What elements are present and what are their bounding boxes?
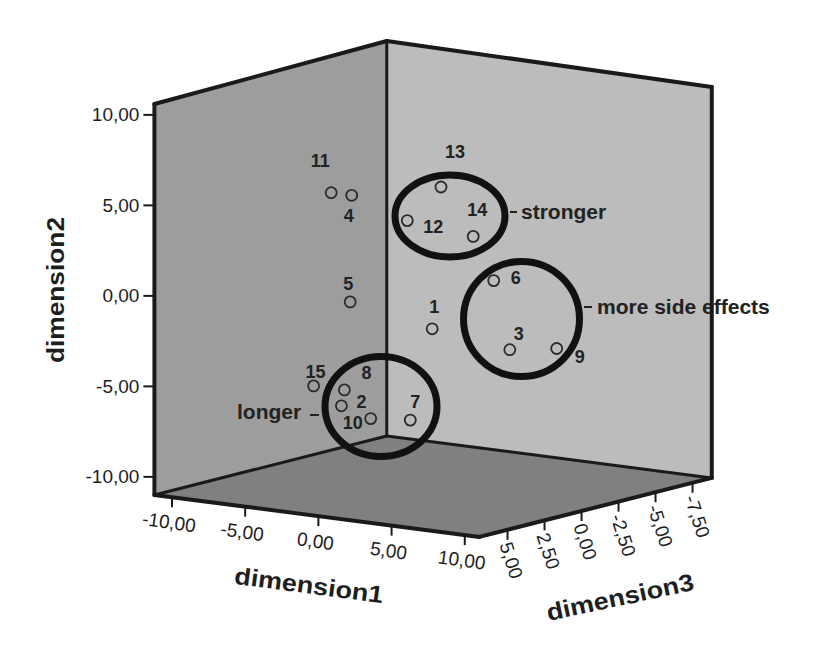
annotation-label-stronger: stronger (521, 200, 606, 223)
data-point-label: 3 (514, 324, 524, 344)
data-point-label: 7 (410, 392, 420, 412)
mds-3d-scatter-chart: stronger more side effects longer 10,005… (0, 0, 825, 657)
annotation-label-longer: longer (237, 400, 301, 423)
data-point-label: 12 (423, 217, 443, 237)
z-tick-label: 0,00 (570, 521, 601, 563)
y-axis-title: dimension2 (42, 217, 69, 363)
y-tick-label: -5,00 (96, 376, 139, 397)
x-tick-label: 5,00 (369, 538, 409, 564)
z-tick-label: -7,50 (681, 493, 714, 541)
data-point-label: 5 (343, 274, 353, 294)
data-point-label: 2 (356, 392, 366, 412)
data-point-label: 4 (344, 206, 354, 226)
z-tick-label: 5,00 (496, 540, 527, 582)
x-tick-label: -10,00 (141, 508, 197, 536)
data-point-label: 6 (511, 268, 521, 288)
x-tick-label: 0,00 (296, 528, 336, 554)
y-tick-label: 10,00 (92, 104, 140, 125)
z-axis-title: dimension3 (544, 568, 696, 626)
z-tick-label: -2,50 (607, 511, 640, 559)
x-tick-label: -5,00 (219, 518, 265, 545)
z-tick-label: -5,00 (644, 502, 677, 550)
data-point-label: 8 (361, 363, 371, 383)
x-axis-title: dimension1 (233, 562, 385, 608)
chart-walls (154, 41, 711, 537)
data-point-label: 9 (575, 347, 585, 367)
y-tick-label: 0,00 (102, 285, 139, 306)
data-point-label: 14 (467, 200, 487, 220)
x-tick-label: 10,00 (437, 546, 487, 573)
data-point-label: 10 (343, 413, 363, 433)
data-point-label: 13 (445, 142, 465, 162)
annotation-label-side-effects: more side effects (597, 295, 770, 318)
data-point-label: 1 (429, 297, 439, 317)
z-tick-label: 2,50 (533, 530, 564, 572)
data-point-label: 15 (306, 362, 326, 382)
data-point-label: 11 (311, 151, 330, 171)
y-tick-label: -10,00 (86, 466, 140, 487)
y-tick-label: 5,00 (102, 195, 139, 216)
